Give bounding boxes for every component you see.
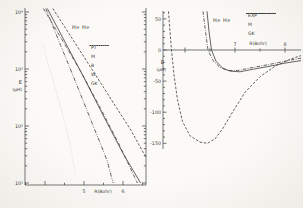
left-y-tick-label: 10¹ bbox=[15, 181, 23, 186]
legend-item-B: B bbox=[88, 61, 98, 70]
legend-item-M: M bbox=[88, 52, 98, 61]
legend-label-W: W bbox=[91, 72, 96, 77]
left-y-tick-label: 10⁴ bbox=[15, 10, 23, 15]
series-line-B bbox=[53, 9, 146, 158]
right-y-tick-label: -100 bbox=[150, 110, 161, 115]
series-line-W bbox=[46, 9, 114, 184]
legend-label-B: B bbox=[91, 63, 94, 68]
series-line-M bbox=[43, 9, 137, 184]
right-y-tick-label: 0 bbox=[158, 48, 161, 53]
right-y-tick-label: -150 bbox=[150, 141, 161, 146]
legend-label-M: M bbox=[248, 22, 252, 27]
right-y-axis-label: E bbox=[150, 60, 164, 65]
legend-item-GK: GK bbox=[88, 79, 98, 88]
right-x-tick-label: 8 bbox=[283, 42, 286, 47]
left-chart-panel: 10¹10²10³10⁴56 He He E (μH) R(Bohr) PTMB… bbox=[0, 0, 150, 208]
left-chart-canvas: 10¹10²10³10⁴56 bbox=[0, 0, 150, 208]
legend-label-GK: GK bbox=[248, 31, 255, 36]
left-x-tick-label: 6 bbox=[121, 189, 124, 194]
legend-label-M: M bbox=[91, 54, 95, 59]
right-x-axis-label: R(Bohr) bbox=[236, 41, 280, 46]
series-line-GK bbox=[43, 45, 75, 174]
left-chart-title: He He bbox=[64, 25, 98, 30]
left-x-axis-label: R(Bohr) bbox=[85, 189, 121, 194]
legend-item-M: M bbox=[245, 20, 257, 29]
legend-label-GK: GK bbox=[91, 81, 98, 86]
left-y-tick-label: 10² bbox=[15, 124, 23, 129]
legend-line-sample-GK bbox=[245, 11, 277, 16]
left-y-tick-label: 10³ bbox=[15, 67, 23, 72]
left-y-axis-unit: (μH) bbox=[2, 87, 22, 92]
right-y-tick-label: 50 bbox=[155, 17, 161, 22]
figure: 10¹10²10³10⁴56 He He E (μH) R(Bohr) PTMB… bbox=[0, 0, 303, 208]
right-chart-panel: 500-50-100-15078 He He E (μH) R(Bohr) EX… bbox=[150, 0, 303, 208]
legend-item-W: W bbox=[88, 70, 98, 79]
right-y-axis-unit: (μH) bbox=[150, 67, 166, 72]
right-chart-title: He He bbox=[205, 18, 239, 23]
right-y-tick-label: -50 bbox=[153, 79, 161, 84]
legend-line-sample-GK bbox=[88, 43, 110, 48]
right-chart-canvas: 500-50-100-15078 bbox=[150, 0, 303, 208]
series-line-GK bbox=[169, 11, 302, 143]
legend-item-GK: GK bbox=[245, 29, 257, 38]
left-chart-legend: PTMBWGK bbox=[88, 43, 98, 88]
right-chart-legend: EXPMGK bbox=[245, 11, 257, 38]
left-y-axis-label: E bbox=[6, 80, 22, 85]
